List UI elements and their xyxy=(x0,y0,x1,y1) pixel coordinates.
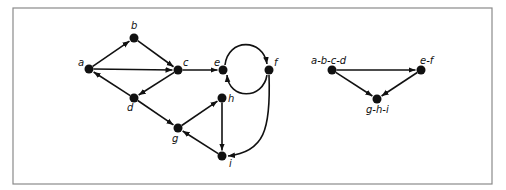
node-label-ef: e-f xyxy=(420,55,435,66)
node-b xyxy=(130,34,139,43)
node-label-e: e xyxy=(214,57,220,68)
edge-c-to-d xyxy=(139,72,175,95)
node-h xyxy=(218,94,227,103)
edge-a-to-b xyxy=(93,41,130,66)
node-label-g: g xyxy=(172,133,178,144)
node-c xyxy=(174,66,183,75)
node-f xyxy=(265,66,274,75)
node-label-d: d xyxy=(127,102,134,113)
node-label-i: i xyxy=(229,158,232,169)
node-ghi xyxy=(373,95,382,104)
edge-i-to-g xyxy=(183,131,219,154)
edge-abcd-to-ghi xyxy=(336,72,373,96)
nodes-layer xyxy=(85,34,426,161)
edge-ef-to-ghi xyxy=(382,72,418,95)
edge-d-to-g xyxy=(138,101,174,125)
node-label-b: b xyxy=(131,20,137,31)
edge-d-to-a xyxy=(94,72,131,96)
edges-layer xyxy=(93,41,418,156)
node-abcd xyxy=(328,66,337,75)
edge-a-to-c xyxy=(93,69,172,70)
node-ef xyxy=(417,66,426,75)
node-a xyxy=(85,65,94,74)
node-g xyxy=(174,124,183,133)
edge-e-to-f xyxy=(225,45,267,65)
node-label-h: h xyxy=(228,93,234,104)
node-i xyxy=(218,152,227,161)
edge-f-to-e xyxy=(227,75,267,94)
edge-b-to-c xyxy=(138,41,174,67)
node-label-abcd: a-b-c-d xyxy=(311,55,347,66)
figure-frame xyxy=(13,8,492,184)
graph-figure: abcdefghia-b-c-de-fg-h-i xyxy=(0,0,506,190)
node-label-f: f xyxy=(274,57,279,68)
node-label-a: a xyxy=(78,57,84,68)
edge-g-to-h xyxy=(182,101,218,125)
edge-f-to-i xyxy=(228,75,269,156)
node-label-ghi: g-h-i xyxy=(366,104,389,115)
node-label-c: c xyxy=(183,57,189,68)
